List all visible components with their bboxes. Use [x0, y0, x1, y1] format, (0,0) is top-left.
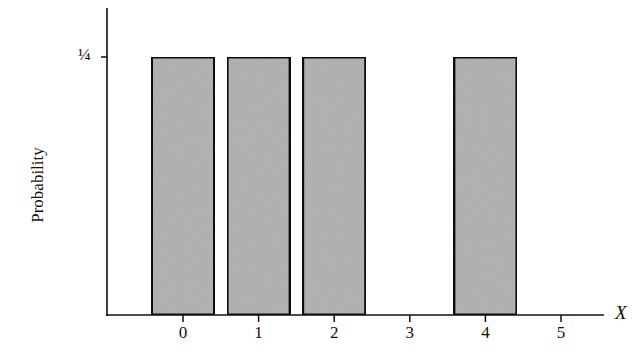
bar-1	[227, 57, 290, 315]
bar-4	[454, 57, 517, 315]
bar-0	[152, 57, 215, 315]
x-tick-label: 1	[254, 323, 263, 343]
x-tick-label: 0	[179, 323, 188, 343]
bars-group	[152, 57, 517, 315]
x-tick-label: 2	[330, 323, 339, 343]
y-tick-label: ¼	[78, 45, 91, 65]
x-tick-label: 4	[481, 323, 490, 343]
x-tick-label: 3	[406, 323, 415, 343]
bar-2	[303, 57, 366, 315]
x-axis-label: X	[615, 302, 627, 324]
bar-chart	[0, 0, 644, 363]
y-axis-label: Probability	[28, 147, 48, 223]
x-tick-label: 5	[557, 323, 566, 343]
